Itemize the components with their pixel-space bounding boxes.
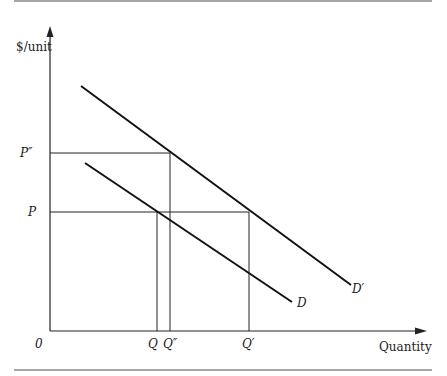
y-axis-label: $/unit: [16, 40, 52, 54]
demand-curve-d: [85, 163, 292, 302]
d-curve-label: D: [296, 296, 307, 310]
p-label: P: [27, 205, 37, 219]
q-label: Q: [148, 337, 158, 351]
origin-label: 0: [35, 337, 43, 351]
x-axis-label: Quantity: [379, 340, 432, 354]
x-axis-arrow-icon: [415, 328, 427, 335]
demand-curve-d-prime: [81, 86, 351, 285]
p-double-prime-label: P″: [19, 146, 33, 160]
y-axis-arrow-icon: [47, 26, 54, 37]
q-prime-label: Q′: [242, 337, 255, 351]
demand-diagram: $/unit Quantity 0 P″ P Q Q″ Q′ D D′: [0, 0, 447, 376]
q-double-prime-label: Q″: [163, 337, 178, 351]
d-prime-curve-label: D′: [351, 282, 365, 296]
